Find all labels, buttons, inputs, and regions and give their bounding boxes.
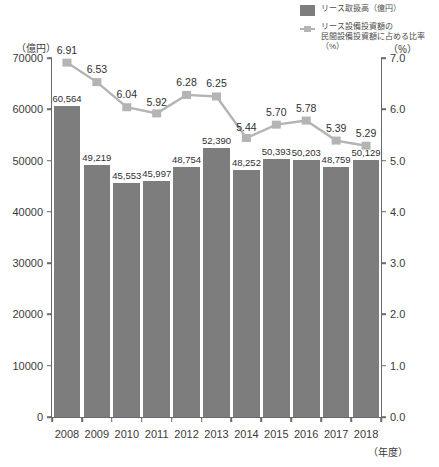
left-tick-label: 20000 — [12, 308, 52, 320]
line-value-label: 6.25 — [206, 77, 226, 89]
x-tick — [320, 417, 322, 422]
x-tick — [141, 417, 143, 422]
legend-line-label: リース設備投資額の 民間設備投資額に占める比率（%） — [321, 22, 439, 52]
x-tick-label: 2017 — [324, 428, 348, 440]
line-value-label: 5.70 — [266, 106, 286, 118]
x-tick — [171, 417, 173, 422]
legend-line-swatch-icon — [300, 23, 315, 34]
left-tick-label: 50000 — [12, 155, 52, 167]
x-tick-label: 2013 — [204, 428, 228, 440]
x-tick — [380, 417, 382, 422]
line-value-label: 6.28 — [176, 76, 196, 88]
legend-item-line: リース設備投資額の 民間設備投資額に占める比率（%） — [300, 22, 439, 52]
right-tick-label: 2.0 — [381, 308, 405, 320]
x-tick-label: 2016 — [294, 428, 318, 440]
chart-legend: リース取扱高（億円） リース設備投資額の 民間設備投資額に占める比率（%） — [300, 4, 439, 58]
right-tick-label: 7.0 — [381, 52, 405, 64]
left-tick-label: 60000 — [12, 103, 52, 115]
line-path — [67, 63, 366, 146]
left-tick-label: 10000 — [12, 360, 52, 372]
x-tick — [350, 417, 352, 422]
line-value-label: 5.29 — [356, 127, 376, 139]
x-tick-label: 2012 — [174, 428, 198, 440]
line-value-label: 5.92 — [146, 96, 166, 108]
legend-item-bar: リース取扱高（億円） — [300, 4, 439, 16]
x-tick-label: 2008 — [55, 428, 79, 440]
x-axis-caption: （年度） — [368, 444, 408, 459]
line-value-label: 6.91 — [57, 44, 77, 56]
line-marker — [182, 91, 191, 99]
right-tick-label: 0.0 — [381, 411, 405, 423]
right-tick-label: 6.0 — [381, 103, 405, 115]
line-marker — [62, 59, 71, 67]
x-tick — [231, 417, 233, 422]
x-tick — [111, 417, 113, 422]
right-tick-label: 3.0 — [381, 257, 405, 269]
right-tick-label: 4.0 — [381, 206, 405, 218]
left-tick-label: 40000 — [12, 206, 52, 218]
line-marker — [272, 121, 281, 129]
line-marker — [92, 78, 101, 86]
x-tick — [261, 417, 263, 422]
x-tick-label: 2011 — [145, 428, 169, 440]
line-marker — [122, 103, 131, 111]
legend-bar-label: リース取扱高（億円） — [321, 4, 401, 14]
left-tick-label: 70000 — [12, 52, 52, 64]
line-value-label: 6.53 — [87, 63, 107, 75]
x-tick-label: 2009 — [85, 428, 109, 440]
line-series — [52, 58, 381, 417]
x-tick — [51, 417, 53, 422]
line-value-label: 5.39 — [326, 122, 346, 134]
legend-bar-swatch-icon — [300, 5, 315, 16]
line-marker — [152, 109, 161, 117]
x-tick-label: 2018 — [354, 428, 378, 440]
line-value-label: 5.44 — [236, 121, 256, 133]
x-tick-label: 2010 — [115, 428, 139, 440]
line-value-label: 5.78 — [296, 102, 316, 114]
x-tick — [290, 417, 292, 422]
left-tick-label: 0 — [37, 411, 52, 423]
left-tick-label: 30000 — [12, 257, 52, 269]
line-marker — [302, 117, 311, 125]
x-tick — [81, 417, 83, 422]
plot-area: 700006000050000400003000020000100000 7.0… — [51, 58, 382, 418]
chart-page: リース取扱高（億円） リース設備投資額の 民間設備投資額に占める比率（%） （億… — [0, 0, 439, 467]
right-tick-label: 1.0 — [381, 360, 405, 372]
line-marker — [212, 92, 221, 100]
right-tick-label: 5.0 — [381, 155, 405, 167]
x-tick — [201, 417, 203, 422]
line-value-label: 6.04 — [117, 88, 137, 100]
line-marker — [242, 134, 251, 142]
line-marker — [332, 137, 341, 145]
x-tick-label: 2014 — [234, 428, 258, 440]
x-tick-label: 2015 — [264, 428, 288, 440]
line-marker — [362, 142, 371, 150]
